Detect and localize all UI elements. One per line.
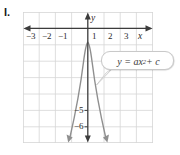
- figure-root: I.: [0, 0, 180, 155]
- equation-callout-text: y = ax2 + c: [102, 52, 175, 71]
- equation-callout: y = ax2 + c: [101, 51, 174, 70]
- x-tick-label-neg3: −3: [26, 32, 36, 41]
- x-axis-name: x: [138, 32, 142, 41]
- y-tick-label-neg6: −6: [74, 122, 84, 131]
- y-axis-bottom-arrowhead: [85, 136, 91, 143]
- x-tick-label-neg2: −2: [42, 32, 52, 41]
- equation-rhs: + c: [146, 56, 160, 67]
- x-tick-label-3: 3: [124, 32, 129, 41]
- x-tick-label-1: 1: [92, 32, 97, 41]
- x-tick-label-neg1: −1: [58, 32, 68, 41]
- x-axis-right-arrowhead: [146, 25, 153, 31]
- equation-lhs: y = ax: [117, 56, 143, 67]
- item-label: I.: [4, 6, 10, 18]
- x-tick-label-2: 2: [108, 32, 113, 41]
- y-tick-label-neg5: −5: [74, 106, 84, 115]
- coordinate-plane: −3 −2 −1 1 2 3 x y −5 −6: [23, 12, 153, 143]
- y-axis-top-arrowhead: [85, 13, 91, 20]
- y-axis-name: y: [91, 14, 95, 23]
